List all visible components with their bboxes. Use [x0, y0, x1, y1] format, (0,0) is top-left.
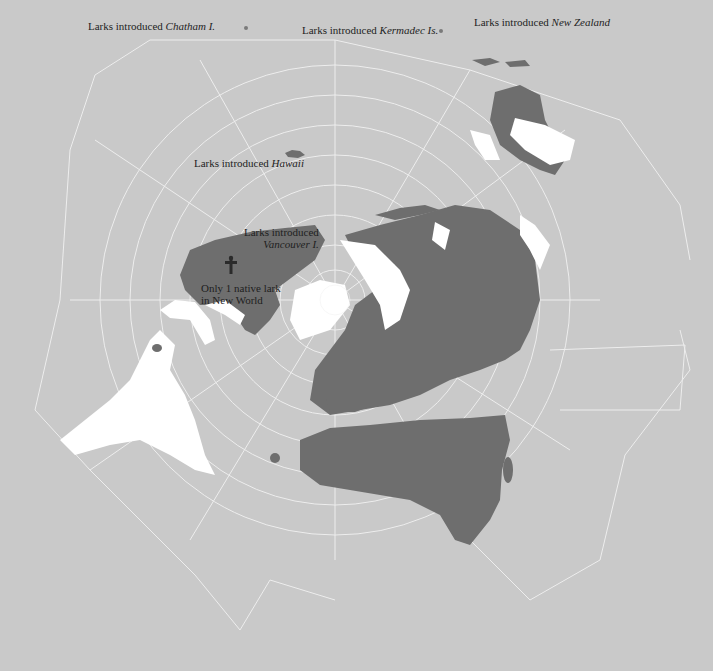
- label-kermadec: Larks introduced Kermadec Is.: [302, 24, 438, 36]
- label-new-zealand-place: New Zealand: [552, 16, 610, 28]
- africa: [300, 415, 510, 545]
- south-america: [60, 330, 215, 475]
- label-vancouver-place: Vancouver I.: [244, 238, 319, 250]
- label-kermadec-prefix: Larks introduced: [302, 24, 377, 36]
- label-new-world-line1: Only 1 native lark: [201, 282, 281, 294]
- label-chatham-prefix: Larks introduced: [88, 20, 163, 32]
- label-new-world-line2: in New World: [201, 294, 281, 306]
- label-chatham: Larks introduced Chatham I.: [88, 20, 215, 32]
- label-vancouver: Larks introduced Vancouver I.: [244, 226, 319, 250]
- label-vancouver-prefix: Larks introduced: [244, 226, 319, 238]
- label-hawaii-prefix: Larks introduced: [194, 157, 269, 169]
- greenland: [290, 280, 350, 340]
- label-new-zealand: Larks introduced New Zealand: [474, 16, 610, 28]
- label-hawaii: Larks introduced Hawaii: [194, 157, 304, 169]
- world-map: [0, 0, 713, 671]
- label-kermadec-place: Kermadec Is.: [380, 24, 439, 36]
- label-chatham-place: Chatham I.: [166, 20, 216, 32]
- label-hawaii-place: Hawaii: [272, 157, 304, 169]
- label-new-world: Only 1 native lark in New World: [201, 282, 281, 306]
- label-new-zealand-prefix: Larks introduced: [474, 16, 549, 28]
